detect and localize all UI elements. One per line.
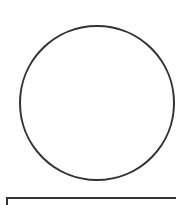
diagram-canvas xyxy=(0,0,176,205)
rectangle-shape xyxy=(7,198,176,205)
circle-shape xyxy=(20,26,174,180)
